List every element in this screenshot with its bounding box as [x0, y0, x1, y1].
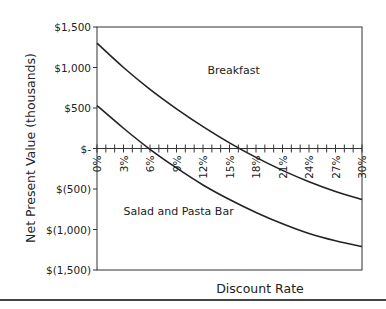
y-axis-title: Net Present Value (thousands): [23, 53, 38, 243]
x-axis-ticks: 0%3%6%9%12%15%18%21%24%27%30%: [91, 145, 368, 179]
x-tick-label: 21%: [277, 155, 289, 178]
x-tick-label: 6%: [144, 155, 156, 172]
x-tick-label: 12%: [197, 155, 209, 178]
x-tick-label: 3%: [118, 155, 130, 172]
bottom-divider: [0, 299, 386, 301]
y-tick-label: $1,000: [54, 62, 91, 74]
series-annotations: BreakfastSalad and Pasta Bar: [124, 64, 261, 218]
y-tick-label: $(500): [56, 183, 91, 195]
y-tick-label: $(1,500): [46, 264, 91, 276]
series-label-salad-and-pasta-bar: Salad and Pasta Bar: [124, 205, 235, 218]
y-tick-label: $(1,000): [46, 224, 91, 236]
x-tick-label: 24%: [303, 155, 315, 178]
y-tick-label: $1,500: [54, 21, 91, 33]
x-tick-label: 27%: [330, 155, 342, 178]
x-tick-label: 9%: [171, 155, 183, 172]
y-axis-ticks: $1,500$1,000$500$-$(500)$(1,000)$(1,500): [46, 21, 97, 276]
npv-chart: $1,500$1,000$500$-$(500)$(1,000)$(1,500)…: [0, 0, 386, 309]
y-tick-label: $-: [81, 143, 92, 155]
x-tick-label: 0%: [91, 155, 103, 172]
x-axis-title: Discount Rate: [216, 281, 304, 296]
x-tick-label: 30%: [356, 155, 368, 178]
series-label-breakfast: Breakfast: [207, 64, 260, 77]
y-tick-label: $500: [64, 102, 91, 114]
x-tick-label: 15%: [224, 155, 236, 178]
